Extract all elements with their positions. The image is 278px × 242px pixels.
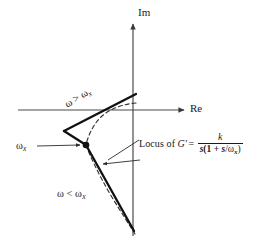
omega-x-text: ω xyxy=(16,140,23,151)
locus-function-name: G′ xyxy=(175,138,187,149)
omega-x-leader-arrow xyxy=(37,145,80,146)
figure-canvas xyxy=(0,0,278,242)
locus-leader-arrow xyxy=(103,160,140,164)
locus-lead-text: Locus of xyxy=(139,138,175,149)
fraction-denominator: s(1 + s/ωx) xyxy=(198,144,243,156)
imaginary-axis-label: Im xyxy=(138,7,150,18)
denominator-open-paren: (1 + xyxy=(203,144,221,154)
omega-less-than-label: ω < ωx xyxy=(57,189,86,200)
omega-less-subscript: x xyxy=(82,192,86,201)
locus-curve-dashed-upper xyxy=(86,103,136,145)
omega-less-text: ω < ω xyxy=(57,188,82,199)
transfer-function-fraction: k s(1 + s/ωx) xyxy=(198,132,243,156)
locus-equals-sign: = xyxy=(187,138,197,149)
omega-x-label: ωx xyxy=(16,141,26,152)
denominator-close-paren: ) xyxy=(238,144,241,154)
asymptote-upper-segment xyxy=(64,131,86,145)
asymptote-lower-segment xyxy=(86,145,134,231)
fraction-numerator: k xyxy=(214,132,226,143)
polar-plot-figure: Im Re ω > ωx ω < ωx ωx Locus of G′ = k s… xyxy=(0,0,278,242)
locus-annotation: Locus of G′ = k s(1 + s/ωx) xyxy=(139,132,243,156)
omega-x-subscript: x xyxy=(23,144,27,153)
breakpoint-marker-dot xyxy=(83,142,90,149)
real-axis-label: Re xyxy=(190,103,202,114)
locus-leader-line xyxy=(108,140,139,160)
